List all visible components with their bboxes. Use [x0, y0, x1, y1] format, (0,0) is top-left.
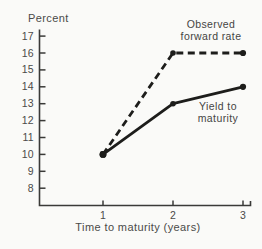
series-label-yield-to-maturity: Yield to maturity: [168, 100, 262, 124]
y-tick-label: 11: [23, 131, 35, 143]
y-tick-label: 14: [22, 80, 34, 92]
series-label-text-line: Yield to: [168, 100, 262, 112]
y-tick-label: 15: [22, 63, 34, 75]
data-point-marker-yield-to-maturity: [240, 84, 246, 90]
y-tick-label: 8: [28, 182, 34, 194]
y-tick-label: 16: [22, 47, 34, 59]
y-tick-label: 13: [22, 97, 34, 109]
series-label-text-line: Observed: [161, 18, 261, 30]
data-point-marker-observed-forward-rate: [170, 50, 176, 56]
y-tick-label: 9: [28, 165, 34, 177]
data-point-marker-yield-to-maturity: [100, 151, 107, 158]
x-tick-label: 2: [170, 209, 176, 221]
series-label-text-line: forward rate: [161, 30, 261, 42]
data-point-marker-observed-forward-rate: [240, 50, 246, 56]
y-tick-label: 10: [22, 148, 34, 160]
x-axis-title: Time to maturity (years): [48, 221, 228, 233]
y-tick-label: 17: [22, 30, 34, 42]
x-tick-label: 1: [100, 209, 106, 221]
series-label-observed-forward-rate: Observed forward rate: [161, 18, 261, 42]
chart-figure: Percent 171615141312111098123 Observed f…: [0, 0, 262, 249]
y-tick-label: 12: [22, 114, 34, 126]
series-label-text-line: maturity: [168, 112, 262, 124]
x-tick-label: 3: [240, 209, 246, 221]
